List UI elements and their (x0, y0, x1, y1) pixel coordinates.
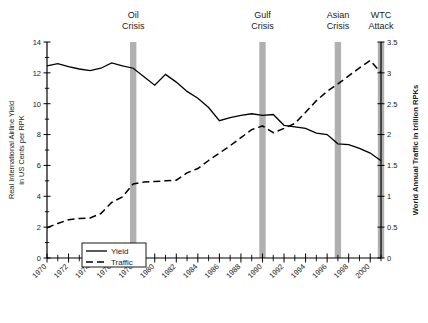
series-line-yield (47, 63, 381, 161)
y-tick-label-left: 0 (37, 254, 41, 263)
legend-label-traffic: Traffic (111, 258, 133, 267)
series-line-traffic (47, 61, 381, 228)
crisis-band-gulf-crisis (259, 42, 265, 258)
y-tick-label-right: 0.5 (387, 223, 397, 232)
chart-container: OilCrisisGulfCrisisAsianCrisisWTCAttack0… (0, 0, 428, 323)
y-tick-label-left: 8 (37, 130, 41, 139)
y-tick-label-left: 6 (37, 161, 41, 170)
y-axis-left-title: Real International Airline Yield (7, 101, 16, 199)
y-tick-label-left: 10 (33, 100, 41, 109)
crisis-band-oil-crisis (130, 42, 136, 258)
x-tick-label: 1996 (310, 262, 328, 280)
y-tick-label-right: 3 (387, 69, 391, 78)
x-tick-label: 1988 (224, 262, 242, 280)
crisis-band-asian-crisis (335, 42, 341, 258)
y-axis-right-title: World Annual Traffic in trillion RPKs (411, 85, 420, 215)
annotation-label-asian-crisis-line2: Crisis (327, 21, 350, 31)
y-tick-label-right: 1 (387, 192, 391, 201)
x-tick-label: 1982 (160, 262, 178, 280)
y-tick-label-right: 1.5 (387, 161, 397, 170)
x-tick-label: 1992 (267, 262, 285, 280)
line-chart: OilCrisisGulfCrisisAsianCrisisWTCAttack0… (0, 0, 428, 323)
y-tick-label-left: 14 (33, 38, 41, 47)
y-tick-label-right: 2.5 (387, 100, 397, 109)
y-tick-label-right: 3.5 (387, 38, 397, 47)
annotation-label-gulf-crisis-line2: Crisis (251, 21, 274, 31)
y-tick-label-left: 4 (37, 192, 41, 201)
y-tick-label-right: 0 (387, 254, 391, 263)
y-tick-label-right: 2 (387, 130, 391, 139)
annotation-label-asian-crisis: Asian (327, 10, 350, 20)
x-tick-label: 1990 (246, 262, 264, 280)
annotation-label-wtc-attack-line2: Attack (368, 21, 394, 31)
x-tick-label: 1998 (332, 262, 350, 280)
x-tick-label: 1994 (289, 262, 307, 280)
annotation-label-gulf-crisis: Gulf (254, 10, 271, 20)
y-tick-label-left: 2 (37, 223, 41, 232)
x-tick-label: 1972 (52, 262, 70, 280)
x-tick-label: 2000 (353, 262, 371, 280)
x-tick-label: 1970 (30, 262, 48, 280)
y-tick-label-left: 12 (33, 69, 41, 78)
annotation-label-oil-crisis-line2: Crisis (122, 21, 145, 31)
annotation-label-oil-crisis: Oil (128, 10, 139, 20)
x-tick-label: 1986 (203, 262, 221, 280)
y-axis-left-title-line2: in US Cents per RPK (17, 115, 26, 184)
annotation-label-wtc-attack: WTC (371, 10, 392, 20)
x-tick-label: 1984 (181, 262, 199, 280)
legend-label-yield: Yield (111, 247, 129, 256)
